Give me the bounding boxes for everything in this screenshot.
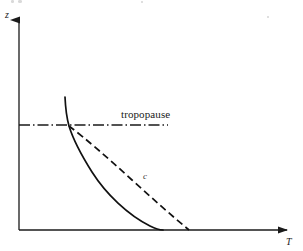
altitude-axis-label: z	[5, 10, 9, 20]
tropopause-label: tropopause	[121, 108, 170, 120]
curve-label-c: c	[143, 172, 147, 181]
parcel-temperature-curve-c	[69, 126, 189, 230]
atmospheric-profile-figure: z T c tropopause	[0, 0, 303, 251]
temperature-axis-label: T	[286, 237, 292, 247]
figure-canvas	[0, 0, 303, 251]
